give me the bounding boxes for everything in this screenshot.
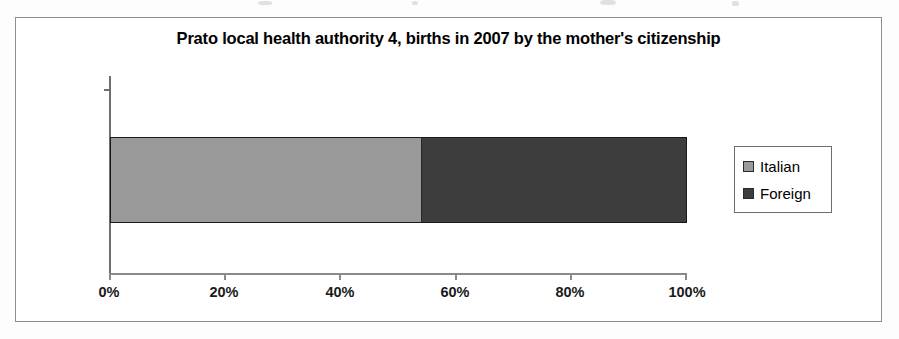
x-axis-tick bbox=[109, 273, 111, 280]
legend-label: Italian bbox=[760, 159, 800, 174]
legend-swatch-icon bbox=[743, 161, 754, 172]
x-axis-tick bbox=[224, 273, 226, 280]
x-axis-tick bbox=[455, 273, 457, 280]
x-axis-tick-label: 0% bbox=[99, 284, 120, 300]
scan-artifact bbox=[258, 1, 272, 5]
x-axis-tick bbox=[570, 273, 572, 280]
plot-area: 0% 20% 40% 60% 80% 100% bbox=[109, 76, 701, 273]
y-axis-tick bbox=[104, 89, 110, 91]
chart-frame: Prato local health authority 4, births i… bbox=[15, 17, 882, 322]
chart-title: Prato local health authority 4, births i… bbox=[16, 29, 881, 48]
legend-item-italian[interactable]: Italian bbox=[743, 153, 831, 180]
scan-artifact bbox=[412, 1, 418, 5]
scanned-page: Prato local health authority 4, births i… bbox=[0, 0, 899, 339]
stacked-bar bbox=[110, 137, 687, 223]
x-axis-tick bbox=[339, 273, 341, 280]
x-axis-tick-label: 60% bbox=[440, 284, 469, 300]
legend-label: Foreign bbox=[760, 186, 811, 201]
x-axis-line bbox=[109, 273, 686, 275]
legend-item-foreign[interactable]: Foreign bbox=[743, 180, 831, 207]
bar-segment-italian[interactable] bbox=[111, 138, 422, 222]
x-axis-tick-label: 80% bbox=[555, 284, 584, 300]
chart-legend: Italian Foreign bbox=[734, 146, 832, 213]
x-axis-tick bbox=[685, 273, 687, 280]
scan-artifact bbox=[600, 0, 616, 5]
legend-swatch-icon bbox=[743, 188, 754, 199]
x-axis-tick-label: 20% bbox=[209, 284, 238, 300]
x-axis-tick-label: 100% bbox=[668, 284, 705, 300]
bar-segment-foreign[interactable] bbox=[422, 138, 687, 222]
scan-artifact bbox=[732, 1, 739, 6]
x-axis-tick-label: 40% bbox=[325, 284, 354, 300]
